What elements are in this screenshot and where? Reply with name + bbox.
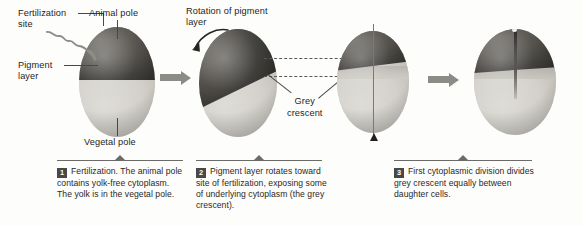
fertilization-site-label: Fertilization site [18,8,66,30]
stage-arrow-2 [428,76,450,83]
caption-number-1: 1 [57,168,67,178]
caption-number-3: 3 [394,168,404,178]
pigment-layer-label: Pigment layer [18,60,52,82]
caption-text-3: First cytoplasmic division divides grey … [394,166,534,199]
division-axis-arrow-icon [370,133,378,141]
grey-crescent-leader-left [268,74,298,75]
animal-pole-leader [117,20,118,39]
stage-arrow-1 [160,74,182,81]
caption-1: 1Fertilization. The animal pole contains… [57,166,185,200]
caption-rule-1 [57,160,183,161]
animal-pole-label: Animal pole [89,8,138,19]
division-axis-line [373,24,374,135]
figure-container: Fertilization site Animal pole Pigment l… [0,0,583,226]
caption-pointer-3 [458,155,468,160]
caption-pointer-1 [115,155,125,160]
caption-rule-3 [394,160,532,161]
pigment-layer-leader [64,65,98,66]
caption-text-2: Pigment layer rotates toward site of fer… [196,166,327,210]
grey-crescent-label: Grey crescent [287,96,323,119]
sperm-squiggle-icon [45,28,97,68]
caption-3: 3First cytoplasmic division divides grey… [394,166,538,200]
caption-number-2: 2 [196,168,206,178]
sphere-shading [474,29,556,135]
caption-text-1: Fertilization. The animal pole contains … [57,166,182,199]
vegetal-pole-label: Vegetal pole [84,137,136,148]
caption-rule-2 [196,160,322,161]
egg-stage-4 [474,29,556,135]
vegetal-pole-leader [117,118,118,136]
caption-pointer-2 [254,155,264,160]
caption-2: 2Pigment layer rotates toward site of fe… [196,166,327,212]
curved-rotation-arrow-icon [186,18,232,68]
